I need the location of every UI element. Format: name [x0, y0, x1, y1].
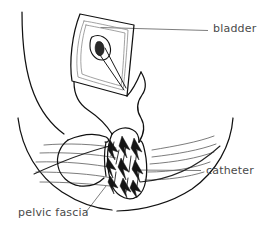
label-pelvic-fascia: pelvic fascia — [18, 206, 89, 219]
figure-canvas: bladder catheter pelvic fascia — [0, 0, 265, 235]
label-bladder: bladder — [213, 22, 257, 35]
label-catheter: catheter — [206, 164, 254, 177]
catheter-leader-line — [132, 170, 201, 171]
anatomical-figure: bladder catheter pelvic fascia — [0, 0, 265, 235]
balloon-core — [95, 41, 104, 55]
